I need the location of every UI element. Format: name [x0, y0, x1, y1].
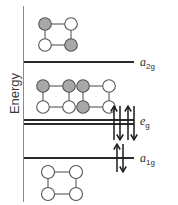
cluster-node-open [42, 188, 55, 201]
cluster-node-shaded [65, 39, 78, 52]
cluster-a2g [32, 12, 84, 56]
cluster-node-shaded [39, 18, 52, 31]
cluster-a1g [34, 160, 90, 205]
electron-arrows-a1g [112, 142, 130, 174]
cluster-node-open [103, 80, 116, 93]
cluster-node-open [70, 166, 83, 179]
electron-arrows-eg [109, 104, 139, 142]
cluster-node-open [70, 188, 83, 201]
level-label-a1g: a1g [140, 151, 155, 167]
cluster-node-open [65, 18, 78, 31]
cluster-node-shaded [77, 101, 90, 114]
energy-level-diagram: Energy a2g [0, 0, 178, 205]
level-label-eg-subscript: g [145, 121, 149, 130]
level-label-a2g: a2g [140, 55, 155, 71]
energy-axis-line [23, 6, 24, 202]
level-label-a1g-subscript: 1g [146, 158, 155, 167]
cluster-node-open [42, 166, 55, 179]
energy-axis-label: Energy [7, 54, 22, 134]
cluster-node-shaded [37, 80, 50, 93]
level-label-a2g-subscript: 2g [146, 62, 155, 71]
cluster-node-open [37, 101, 50, 114]
cluster-node-shaded [77, 80, 90, 93]
level-label-eg: eg [140, 114, 150, 130]
level-line-a2g [24, 61, 134, 63]
cluster-node-open [39, 39, 52, 52]
